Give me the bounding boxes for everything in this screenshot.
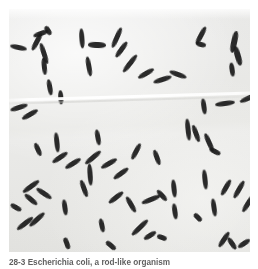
bacterium-rod: [152, 149, 162, 166]
bacterium-rod: [169, 69, 188, 80]
bacterium-rod: [196, 41, 207, 48]
bacterium-rod: [54, 132, 61, 152]
bacterium-rod: [62, 199, 69, 216]
bacterium-rod: [171, 179, 178, 197]
bacterium-rod: [84, 149, 103, 166]
bacterium-rod: [51, 150, 69, 164]
bacterium-rod: [201, 169, 208, 189]
bacterium-rod: [63, 237, 71, 250]
photomicrograph-plate: [9, 9, 250, 252]
bacterium-rod: [130, 142, 143, 160]
bacterium-rod: [210, 198, 217, 217]
bacterium-rod: [215, 100, 236, 108]
bacterium-rod: [21, 108, 39, 121]
bacterium-rod: [112, 166, 130, 181]
bacterium-rod: [100, 157, 118, 170]
print-top-highlight: [9, 9, 250, 19]
bacterium-rod: [239, 91, 250, 105]
bacterium-rod: [98, 218, 106, 233]
bacterium-rod: [201, 98, 208, 115]
bacterium-rod: [64, 157, 82, 171]
bacterium-rod: [226, 236, 238, 250]
bacterium-rod: [87, 163, 94, 185]
bacterium-rod: [79, 28, 85, 48]
bacterium-rod: [35, 186, 53, 200]
bacterium-rod: [237, 238, 250, 250]
bacterium-rod: [241, 194, 250, 214]
bacterium-rod: [10, 43, 28, 51]
bacterium-rod: [184, 118, 191, 140]
bacterium-rod: [219, 178, 232, 196]
bacterium-rod: [137, 67, 155, 80]
bacterium-rod: [193, 212, 203, 222]
bacterium-rod: [88, 42, 106, 48]
bacterium-rod: [58, 90, 64, 104]
bacterium-rod: [232, 180, 246, 200]
bacterium-rod: [121, 53, 138, 73]
bacterium-rod: [94, 129, 102, 146]
bacterium-rod: [172, 203, 179, 220]
bacterium-rod: [153, 74, 173, 85]
bacterium-rod: [33, 142, 43, 157]
print-seam-highlight: [9, 91, 250, 102]
bacterium-rod: [105, 240, 117, 251]
figure-caption: 28-3 Escherichia coli, a rod-like organi…: [9, 258, 255, 269]
bacterium-rod: [85, 56, 93, 77]
print-seam-shadow: [9, 95, 250, 105]
bacterium-rod: [23, 192, 38, 206]
bacterium-rod: [143, 230, 158, 242]
bacterium-rod: [10, 102, 29, 112]
bacterium-rod: [124, 195, 137, 213]
bacterium-rod: [157, 233, 168, 241]
figure-caption-text: 28-3 Escherichia coli, a rod-like organi…: [9, 258, 255, 267]
bacterium-rod: [209, 146, 222, 156]
bacterium-rod: [46, 79, 53, 96]
bacterium-rod: [228, 62, 235, 77]
bacterium-rod: [10, 202, 23, 212]
bacterium-rod: [107, 190, 124, 205]
bacterium-rod: [233, 45, 244, 66]
bacterium-rod: [191, 124, 202, 143]
figure-page: 28-3 Escherichia coli, a rod-like organi…: [0, 0, 258, 269]
